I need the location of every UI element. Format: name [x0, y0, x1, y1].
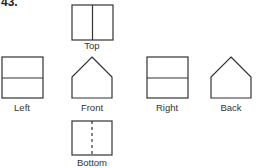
left-view — [2, 57, 43, 98]
bottom-view — [72, 121, 112, 155]
label-bottom: Bottom — [62, 157, 122, 168]
label-right: Right — [137, 102, 197, 113]
label-left: Left — [0, 102, 52, 113]
label-top: Top — [62, 40, 122, 51]
top-view — [72, 5, 113, 40]
back-view — [211, 57, 251, 98]
right-view — [147, 57, 188, 98]
label-front: Front — [62, 102, 122, 113]
front-view — [72, 57, 112, 98]
label-back: Back — [201, 102, 261, 113]
orthographic-views-diagram — [0, 0, 261, 168]
